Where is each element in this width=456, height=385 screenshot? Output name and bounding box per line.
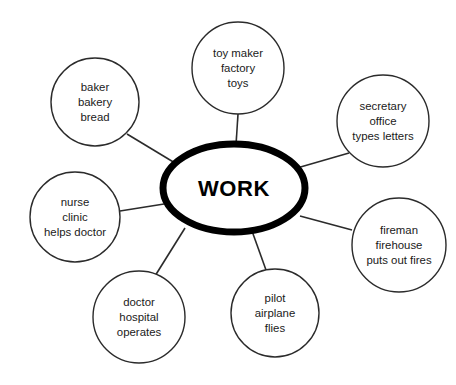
satellite-node-fireman[interactable]: firemanfirehouseputs out fires — [352, 198, 446, 292]
connector-line-fireman — [300, 216, 352, 230]
satellite-label-line: clinic — [62, 211, 88, 223]
satellite-node-nurse[interactable]: nurseclinichelps doctor — [30, 172, 120, 262]
satellite-label-line: baker — [81, 81, 110, 93]
satellite-label-line: helps doctor — [44, 226, 106, 238]
connector-line-secretary — [297, 153, 349, 168]
diagram-canvas: toy makerfactorytoyssecretaryofficetypes… — [0, 0, 456, 385]
center-node-label: WORK — [198, 176, 270, 201]
satellite-node-secretary[interactable]: secretaryofficetypes letters — [337, 75, 429, 167]
center-node-layer: WORK — [163, 144, 305, 232]
satellite-label-line: toy maker — [213, 47, 263, 59]
satellite-label-line: pilot — [265, 292, 287, 304]
satellite-label-line: secretary — [360, 100, 407, 112]
connector-line-pilot — [252, 231, 266, 270]
satellite-label-line: fireman — [380, 224, 418, 236]
satellite-node-toy-maker[interactable]: toy makerfactorytoys — [192, 22, 284, 114]
satellite-label-line: firehouse — [376, 239, 423, 251]
satellite-label-line: operates — [117, 326, 162, 338]
satellite-label-line: bakery — [78, 96, 112, 108]
satellite-label-line: hospital — [119, 311, 158, 323]
satellite-label-line: toys — [228, 77, 249, 89]
satellite-label-line: office — [369, 115, 396, 127]
connector-line-doctor — [155, 228, 185, 276]
satellite-label-line: doctor — [123, 296, 155, 308]
satellite-label-line: factory — [221, 62, 255, 74]
word-web-diagram: toy makerfactorytoyssecretaryofficetypes… — [0, 0, 456, 385]
satellite-label-line: bread — [80, 111, 109, 123]
satellite-node-baker[interactable]: bakerbakerybread — [51, 58, 139, 146]
connector-line-baker — [127, 134, 175, 163]
satellite-label-baker: bakerbakerybread — [78, 81, 112, 123]
connector-line-toy-maker — [236, 114, 238, 145]
satellite-label-line: airplane — [255, 307, 296, 319]
satellite-label-doctor: doctorhospitaloperates — [117, 296, 162, 338]
satellite-label-line: puts out fires — [366, 254, 432, 266]
satellite-label-line: nurse — [61, 196, 90, 208]
satellite-label-line: flies — [265, 322, 286, 334]
satellite-node-doctor[interactable]: doctorhospitaloperates — [93, 271, 185, 363]
satellite-label-line: types letters — [352, 130, 414, 142]
satellite-node-pilot[interactable]: pilotairplaneflies — [231, 269, 319, 357]
connector-line-nurse — [120, 204, 164, 211]
